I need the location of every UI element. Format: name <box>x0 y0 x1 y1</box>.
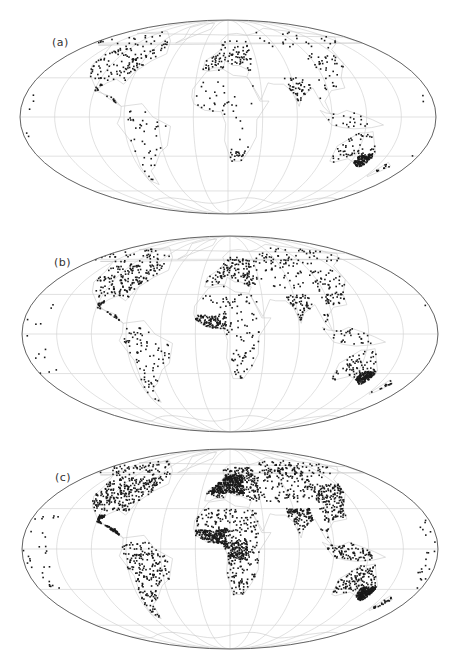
station-dots <box>23 460 436 617</box>
mollweide-map-c <box>0 0 464 663</box>
map-panel-c: (c) <box>0 0 464 663</box>
panel-label-c: (c) <box>55 471 71 484</box>
